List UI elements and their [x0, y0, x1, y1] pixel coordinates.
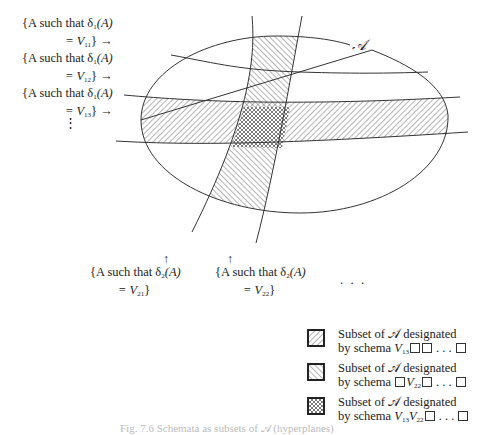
row-label-v12: {A such that δ1(A) = V12} →	[22, 51, 113, 87]
legend-item-back-hatch: Subset of 𝒜 designated by schema V22 . .…	[338, 361, 467, 393]
legend-item-forward-hatch: Subset of 𝒜 designated by schema V13 . .…	[338, 327, 467, 359]
legend-swatch-crosshatch	[308, 398, 324, 414]
column-label-v22: {A such that δ2(A) = V22}	[215, 265, 306, 301]
set-label: 𝒜	[352, 38, 366, 52]
column-label-v21: {A such that δ2(A) = V21}	[90, 265, 181, 301]
row-label-v11: {A such that δ1(A) = V11} →	[22, 16, 113, 52]
column-continuation: . . .	[340, 272, 366, 288]
legend-swatch-back-hatch	[308, 364, 324, 380]
legend-item-crosshatch: Subset of 𝒜 designated by schema V13V22 …	[338, 395, 469, 427]
legend-swatch-forward-hatch	[308, 330, 324, 346]
row-continuation: ⋮	[64, 119, 77, 126]
figure-caption: Fig. 7.6 Schemata as subsets of 𝒜 (hyper…	[120, 422, 334, 435]
